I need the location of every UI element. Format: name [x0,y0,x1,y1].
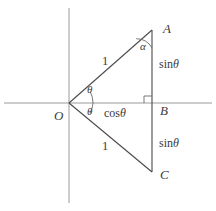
length-label-opposite-lower: sinθ [159,137,179,149]
point-label-o: O [54,109,63,122]
cos-function-name: cos [104,106,120,120]
point-label-a: A [163,22,171,35]
length-label-adjacent: cosθ [104,107,126,119]
length-label-hypotenuse-lower: 1 [102,140,108,153]
right-angle-marker-icon [144,96,152,103]
sin-argument-theta-lower: θ [173,136,179,150]
sin-function-name-upper: sin [159,57,173,71]
sin-function-name-lower: sin [159,136,173,150]
point-label-b: B [160,104,168,117]
cos-argument-theta: θ [120,106,126,120]
sin-argument-theta-upper: θ [173,57,179,71]
length-label-hypotenuse-upper: 1 [102,55,108,68]
point-label-c: C [160,168,169,181]
length-label-opposite-upper: sinθ [159,58,179,70]
angle-label-theta-upper: θ [87,84,92,95]
angle-label-theta-lower: θ [87,106,92,117]
trigonometry-diagram: A B C O 1 1 cosθ sinθ sinθ θ θ α [0,0,216,211]
angle-label-alpha: α [140,41,146,52]
